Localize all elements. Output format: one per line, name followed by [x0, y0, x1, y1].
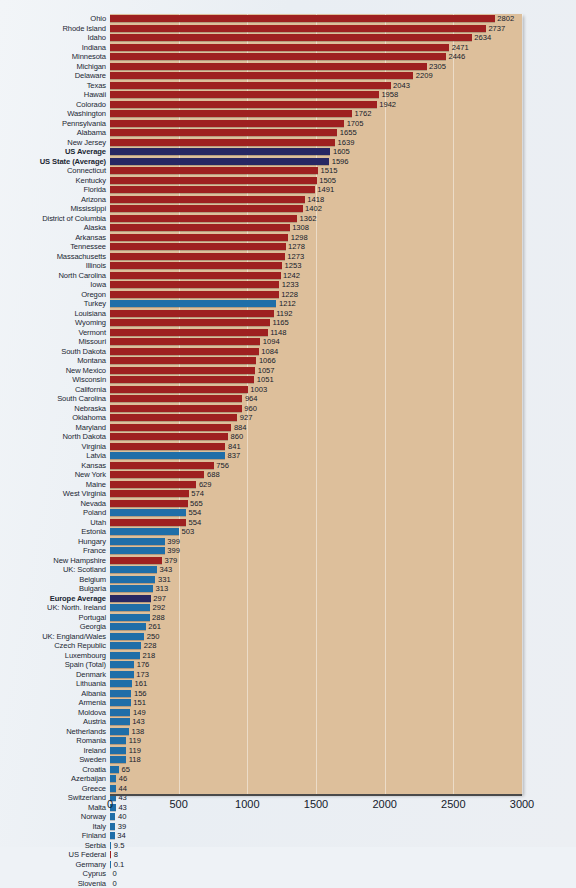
bar-value: 964 — [242, 394, 257, 404]
bar-value: 151 — [131, 698, 146, 708]
bar-label-germany: Germany — [0, 860, 106, 870]
bar-utah — [110, 519, 186, 526]
bar-arizona — [110, 196, 305, 203]
bar-row: Maryland884 — [0, 423, 576, 433]
bar-illinois — [110, 262, 282, 269]
bar-value: 143 — [130, 717, 145, 727]
bar-mississippi — [110, 205, 303, 212]
bar-ireland — [110, 747, 126, 754]
bar-value: 0 — [110, 869, 117, 879]
bar-value: 149 — [130, 708, 145, 718]
bar-track: 1639 — [110, 138, 522, 148]
bar-row: US State (Average)1596 — [0, 157, 576, 167]
bar-value: 313 — [153, 584, 168, 594]
bar-row: Belgium331 — [0, 575, 576, 585]
bar-row: Nebraska960 — [0, 404, 576, 414]
bar-value: 228 — [141, 641, 156, 651]
bar-row: Iowa1233 — [0, 280, 576, 290]
bar-kansas — [110, 462, 214, 469]
bar-track: 1596 — [110, 157, 522, 167]
bar-vermont — [110, 329, 268, 336]
bar-row: Luxembourg218 — [0, 651, 576, 661]
bar-label-kentucky: Kentucky — [0, 176, 106, 186]
bar-row: North Carolina1242 — [0, 271, 576, 281]
bar-value: 399 — [165, 537, 180, 547]
bar-louisiana — [110, 310, 274, 317]
bar-label-south-dakota: South Dakota — [0, 347, 106, 357]
bar-label-malta: Malta — [0, 803, 106, 813]
bar-value: 1242 — [281, 271, 300, 281]
bar-row: Slovenia0 — [0, 879, 576, 888]
bar-label-uk-scotland: UK: Scotland — [0, 565, 106, 575]
bar-row: Maine629 — [0, 480, 576, 490]
bar-arkansas — [110, 234, 288, 241]
bar-track: 1094 — [110, 337, 522, 347]
bar-label-new-york: New York — [0, 470, 106, 480]
bar-row: Wisconsin1051 — [0, 375, 576, 385]
bar-wyoming — [110, 319, 270, 326]
bar-value: 837 — [225, 451, 240, 461]
bar-row: France399 — [0, 546, 576, 556]
bar-value: 1958 — [379, 90, 398, 100]
bar-track: 927 — [110, 413, 522, 423]
bar-track: 8 — [110, 850, 522, 860]
bar-value: 1362 — [297, 214, 316, 224]
bar-label-lithuania: Lithuania — [0, 679, 106, 689]
bar-label-portugal: Portugal — [0, 613, 106, 623]
bar-label-arkansas: Arkansas — [0, 233, 106, 243]
bar-label-croatia: Croatia — [0, 765, 106, 775]
bar-label-turkey: Turkey — [0, 299, 106, 309]
bar-row: Tennessee1278 — [0, 242, 576, 252]
bar-track: 228 — [110, 641, 522, 651]
bar-label-michigan: Michigan — [0, 62, 106, 72]
bar-label-illinois: Illinois — [0, 261, 106, 271]
bar-label-louisiana: Louisiana — [0, 309, 106, 319]
bar-row: Ireland119 — [0, 746, 576, 756]
bar-track: 1655 — [110, 128, 522, 138]
bar-row: Greece44 — [0, 784, 576, 794]
bar-austria — [110, 718, 130, 725]
bar-value: 574 — [189, 489, 204, 499]
bar-row: Colorado1942 — [0, 100, 576, 110]
bar-label-mississippi: Mississippi — [0, 204, 106, 214]
bar-value: 156 — [131, 689, 146, 699]
bar-value: 39 — [115, 822, 126, 832]
bar-value: 884 — [231, 423, 246, 433]
bar-romania — [110, 737, 126, 744]
bar-label-us-federal: US Federal — [0, 850, 106, 860]
bar-label-texas: Texas — [0, 81, 106, 91]
bar-value: 46 — [116, 774, 127, 784]
bar-value: 292 — [150, 603, 165, 613]
bar-north-carolina — [110, 272, 281, 279]
bar-track: 1233 — [110, 280, 522, 290]
bar-track: 1003 — [110, 385, 522, 395]
bar-label-florida: Florida — [0, 185, 106, 195]
bar-track: 960 — [110, 404, 522, 414]
bar-value: 0.1 — [111, 860, 124, 870]
bar-row: Netherlands138 — [0, 727, 576, 737]
bar-track: 1942 — [110, 100, 522, 110]
bar-hungary — [110, 538, 165, 545]
x-tick-1500: 1500 — [304, 798, 328, 810]
bar-value: 1942 — [377, 100, 396, 110]
bar-track: 1308 — [110, 223, 522, 233]
bar-label-tennessee: Tennessee — [0, 242, 106, 252]
bar-label-wisconsin: Wisconsin — [0, 375, 106, 385]
bar-label-ireland: Ireland — [0, 746, 106, 756]
bar-row: Minnesota2446 — [0, 52, 576, 62]
bar-label-austria: Austria — [0, 717, 106, 727]
bar-track: 138 — [110, 727, 522, 737]
bar-row: US Average1605 — [0, 147, 576, 157]
bar-row: Kansas756 — [0, 461, 576, 471]
bar-row: Moldova149 — [0, 708, 576, 718]
bar-virginia — [110, 443, 225, 450]
bar-row: Hawaii1958 — [0, 90, 576, 100]
bar-value: 1705 — [344, 119, 363, 129]
bar-track: 1212 — [110, 299, 522, 309]
bar-track: 0.1 — [110, 860, 522, 870]
bar-denmark — [110, 671, 134, 678]
bar-label-sweden: Sweden — [0, 755, 106, 765]
bar-washington — [110, 110, 352, 117]
bar-row: Ohio2802 — [0, 14, 576, 24]
